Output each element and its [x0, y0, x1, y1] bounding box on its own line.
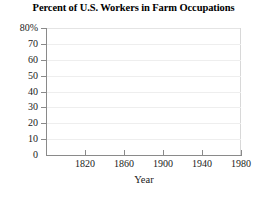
x-tick-1900 — [163, 150, 164, 156]
y-tick-label-0: 0 — [0, 150, 38, 160]
y-tick-label-80: 80% — [0, 23, 38, 33]
y-tick-label-20: 20 — [0, 118, 38, 128]
x-tick-label-1820: 1820 — [63, 158, 107, 169]
y-tick-label-50: 50 — [0, 71, 38, 81]
y-tick-80 — [41, 28, 47, 29]
y-tick-10 — [41, 139, 47, 140]
x-tick-1940 — [202, 150, 203, 156]
y-tick-label-40-wrap: 40 — [0, 87, 38, 97]
gridline-40 — [46, 92, 241, 93]
x-tick-1820 — [85, 150, 86, 156]
x-tick-label-1980: 1980 — [219, 158, 263, 169]
x-tick-label-1900: 1900 — [141, 158, 185, 169]
x-axis-line — [46, 155, 242, 156]
plot-top-border — [46, 28, 241, 29]
gridline-30 — [46, 107, 241, 108]
y-tick-label-10-wrap: 10 — [0, 134, 38, 144]
y-tick-60 — [41, 60, 47, 61]
y-tick-40 — [41, 92, 47, 93]
y-tick-label-50-wrap: 50 — [0, 71, 38, 81]
y-tick-50 — [41, 76, 47, 77]
y-tick-label-10: 10 — [0, 134, 38, 144]
y-tick-label-60: 60 — [0, 55, 38, 65]
y-tick-label-60-wrap: 60 — [0, 55, 38, 65]
y-tick-label-30-wrap: 30 — [0, 102, 38, 112]
x-axis-title: Year — [46, 174, 242, 185]
gridline-50 — [46, 76, 241, 77]
y-tick-20 — [41, 123, 47, 124]
gridline-60 — [46, 60, 241, 61]
plot-area — [46, 28, 241, 155]
y-tick-30 — [41, 107, 47, 108]
gridline-20 — [46, 123, 241, 124]
x-tick-1860 — [124, 150, 125, 156]
y-tick-label-30: 30 — [0, 102, 38, 112]
y-tick-label-0-wrap: 0 — [0, 150, 38, 160]
x-tick-label-1860: 1860 — [102, 158, 146, 169]
y-tick-70 — [41, 44, 47, 45]
y-tick-label-20-wrap: 20 — [0, 118, 38, 128]
y-tick-label-70-wrap: 70 — [0, 39, 38, 49]
chart-title: Percent of U.S. Workers in Farm Occupati… — [0, 2, 267, 13]
y-tick-label-40: 40 — [0, 87, 38, 97]
gridline-10 — [46, 139, 241, 140]
x-tick-1980 — [241, 150, 242, 156]
gridline-70 — [46, 44, 241, 45]
y-tick-label-80-wrap: 80% — [0, 23, 38, 33]
chart-figure: Percent of U.S. Workers in Farm Occupati… — [0, 0, 267, 198]
y-tick-label-70: 70 — [0, 39, 38, 49]
x-tick-label-1940: 1940 — [180, 158, 224, 169]
